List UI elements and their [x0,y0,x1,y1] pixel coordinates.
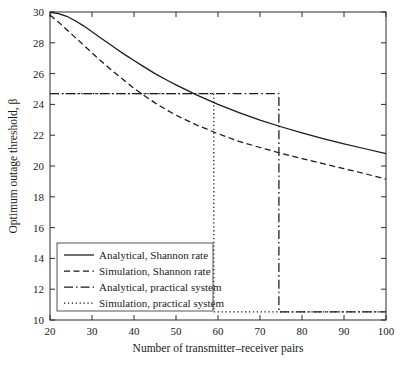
legend-label-2: Simulation, Shannon rate [99,265,211,277]
x-tick-label: 60 [213,325,225,337]
y-tick-label: 22 [33,129,44,141]
y-tick-label: 26 [33,68,45,80]
x-tick-label: 50 [171,325,183,337]
y-tick-label: 18 [33,191,45,203]
y-tick-label: 24 [33,98,45,110]
y-tick-label: 30 [33,6,45,18]
y-axis-title: Optimum outage threshold, β [7,98,20,233]
x-tick-label: 80 [297,325,309,337]
x-tick-label: 90 [339,325,351,337]
x-tick-label: 40 [129,325,141,337]
series-2-dashed [50,15,386,179]
chart-figure: 2030405060708090100 10121416182022242628… [0,0,411,366]
legend-label-1: Analytical, Shannon rate [99,249,208,261]
chart-canvas: 2030405060708090100 10121416182022242628… [0,0,411,366]
x-axis-title: Number of transmitter–receiver pairs [133,342,304,355]
x-tick-label: 70 [255,325,267,337]
legend-label-3: Analytical, practical system [99,281,222,293]
y-tick-label: 16 [33,222,45,234]
series-1-solid [50,12,386,153]
x-tick-label: 100 [378,325,395,337]
y-tick-label: 14 [33,252,45,264]
x-tick-label: 20 [45,325,57,337]
y-tick-label: 20 [33,160,45,172]
x-tick-label: 30 [87,325,99,337]
y-tick-label: 28 [33,37,45,49]
legend-label-4: Simulation, practical system [99,297,224,309]
y-tick-label: 10 [33,314,45,326]
y-tick-label: 12 [33,283,44,295]
chart-legend: Analytical, Shannon rateSimulation, Shan… [57,243,224,311]
